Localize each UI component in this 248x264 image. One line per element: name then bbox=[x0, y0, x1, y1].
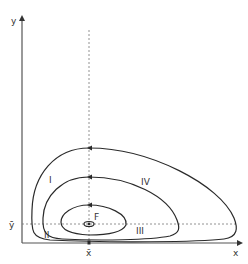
y-axis-label: y bbox=[11, 16, 17, 26]
y-bar-label: ȳ bbox=[9, 220, 15, 230]
region-label-I: I bbox=[49, 175, 52, 185]
middle-orbit-arrow bbox=[87, 175, 92, 180]
outer-orbit-arrow bbox=[87, 146, 92, 151]
orbits-layer: y x ȳ x̄ F I II III IV bbox=[0, 0, 248, 264]
x-bar-label: x̄ bbox=[86, 248, 92, 258]
region-label-IV: IV bbox=[141, 177, 151, 187]
x-axis-label: x bbox=[233, 248, 239, 258]
bottom-axis-tick bbox=[88, 241, 91, 245]
region-label-III: III bbox=[136, 226, 144, 236]
outer-orbit bbox=[32, 148, 237, 242]
region-label-II: II bbox=[44, 230, 49, 240]
equilibrium-point bbox=[88, 223, 91, 226]
equilibrium-label: F bbox=[94, 212, 99, 222]
inner-orbit-arrow bbox=[87, 203, 92, 208]
